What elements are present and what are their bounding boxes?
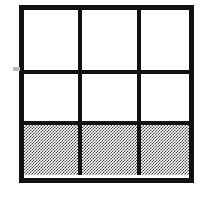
grid-cell-r2c2 — [82, 74, 141, 125]
grid-cell-r2c1 — [24, 74, 82, 125]
grid-cell-r2c3 — [141, 74, 189, 125]
figure-root — [0, 0, 211, 197]
scan-artifact-tick — [13, 67, 20, 71]
shaded-grid-diagram — [19, 5, 194, 183]
grid-cell-r1c2 — [82, 10, 141, 74]
grid-cell-r1c3 — [141, 10, 189, 74]
grid-cell-r3c1 — [24, 125, 82, 175]
grid-cell-r1c1 — [24, 10, 82, 74]
grid-cell-r3c2 — [82, 125, 141, 175]
grid-cell-r3c3 — [141, 125, 189, 175]
